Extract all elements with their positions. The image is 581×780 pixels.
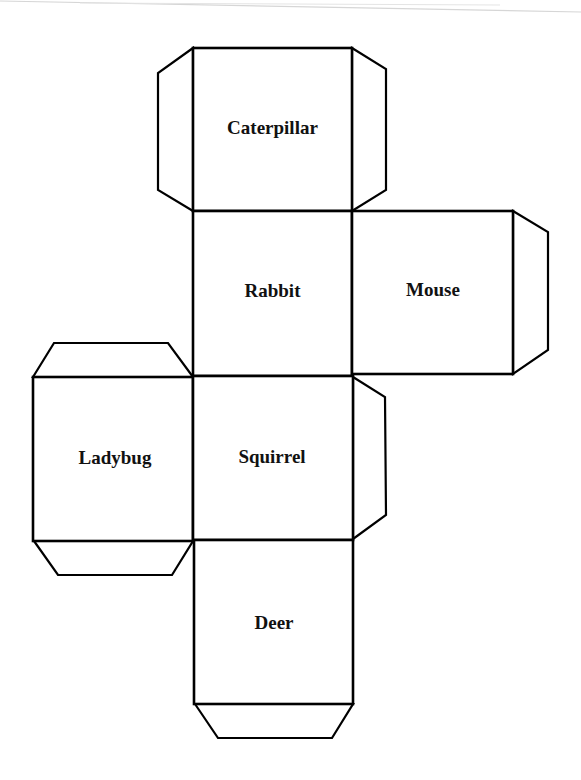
- face-caterpillar: Caterpillar: [193, 48, 352, 211]
- cube-net: Caterpillar Rabbit Mouse Ladybug Squirre…: [0, 0, 581, 780]
- deer-bottom-tab: [195, 704, 353, 738]
- caterpillar-left-tab: [158, 48, 193, 211]
- face-mouse: Mouse: [352, 211, 513, 374]
- face-squirrel: Squirrel: [193, 376, 353, 540]
- mouse-right-tab: [513, 211, 548, 374]
- face-mouse-label: Mouse: [406, 279, 460, 300]
- face-squirrel-label: Squirrel: [238, 446, 305, 467]
- face-rabbit-label: Rabbit: [245, 280, 302, 301]
- face-caterpillar-label: Caterpillar: [227, 117, 318, 138]
- face-ladybug: Ladybug: [33, 377, 193, 541]
- face-rabbit: Rabbit: [193, 211, 352, 376]
- ladybug-top-tab: [33, 343, 193, 377]
- squirrel-right-tab: [353, 377, 386, 539]
- caterpillar-right-tab: [352, 48, 386, 211]
- face-deer-label: Deer: [254, 612, 294, 633]
- face-deer: Deer: [194, 540, 353, 704]
- face-ladybug-label: Ladybug: [79, 447, 152, 468]
- ladybug-bottom-tab: [34, 541, 193, 575]
